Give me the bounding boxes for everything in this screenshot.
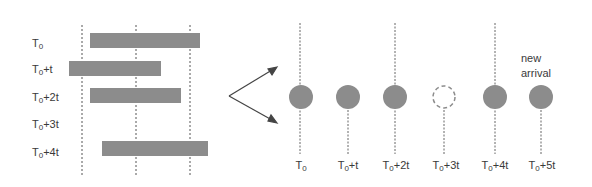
slot-circle-1 (336, 85, 360, 109)
annotation-line-1: new (521, 51, 551, 66)
row-label-0: T0 (32, 37, 43, 49)
row-label-3: T0+3t (32, 118, 59, 130)
branch-arrow-icon (229, 67, 277, 123)
row-label-2: T0+2t (32, 91, 59, 103)
row-label-1: T0+t (32, 63, 53, 75)
bar-row-1 (69, 61, 161, 76)
slot-circle-3-empty (433, 86, 455, 108)
slot-label-4: T0+4t (482, 159, 509, 171)
bar-row-2 (90, 88, 181, 103)
slot-label-1: T0+t (338, 159, 359, 171)
new-arrival-annotation: new arrival (521, 51, 551, 81)
slot-circle-0 (289, 85, 313, 109)
row-label-4: T0+4t (32, 146, 59, 158)
right-lines (300, 23, 541, 154)
right-circles (289, 85, 553, 109)
bar-row-0 (90, 33, 200, 48)
annotation-line-2: arrival (521, 66, 551, 81)
slot-circle-4 (483, 85, 507, 109)
slot-circle-5 (529, 85, 553, 109)
slot-label-0: T0 (295, 159, 306, 171)
slot-label-3: T0+3t (433, 159, 460, 171)
slot-label-2: T0+2t (383, 159, 410, 171)
slot-circle-2 (383, 85, 407, 109)
slot-label-5: T0+5t (529, 159, 556, 171)
bar-row-4 (102, 141, 208, 156)
left-bars (69, 33, 208, 156)
